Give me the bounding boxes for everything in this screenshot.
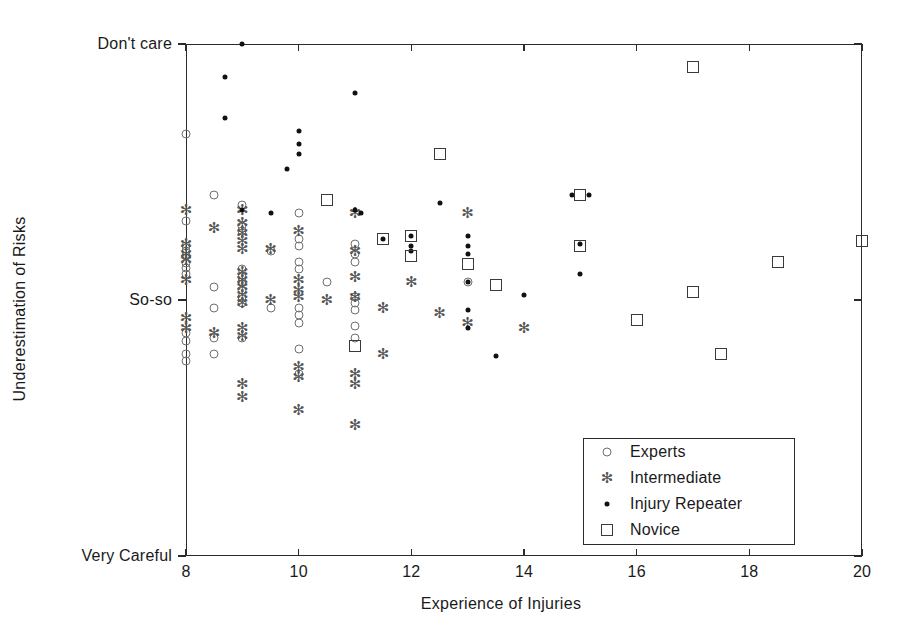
data-point-square — [405, 250, 417, 262]
data-point-circle — [182, 349, 191, 358]
data-point-star — [180, 204, 193, 217]
data-point-circle — [351, 239, 360, 248]
data-point-dot — [296, 152, 301, 157]
data-point-dot — [240, 208, 245, 213]
data-point-star — [349, 270, 362, 283]
data-point-dot — [465, 326, 470, 331]
data-point-star — [320, 294, 333, 307]
data-point-square — [687, 61, 699, 73]
x-tick-label: 18 — [740, 563, 758, 581]
y-tick-label: Don't care — [98, 35, 172, 53]
data-point-dot — [409, 244, 414, 249]
data-point-dot — [578, 272, 583, 277]
data-point-star — [264, 242, 277, 255]
data-point-star — [236, 204, 249, 217]
data-point-star — [518, 322, 531, 335]
legend-item-experts[interactable]: Experts — [584, 439, 794, 465]
star-icon — [601, 472, 614, 485]
data-point-circle — [266, 303, 275, 312]
x-tick-label: 20 — [853, 563, 871, 581]
data-point-dot — [409, 249, 414, 254]
x-axis-title: Experience of Injuries — [0, 595, 898, 613]
data-point-star — [377, 301, 390, 314]
data-point-dot — [223, 75, 228, 80]
data-point-circle — [182, 247, 191, 256]
data-point-star — [292, 370, 305, 383]
data-point-dot — [522, 292, 527, 297]
x-tick-label: 8 — [181, 563, 190, 581]
legend-label: Injury Repeater — [630, 495, 742, 513]
legend-item-injury-repeater[interactable]: Injury Repeater — [584, 491, 794, 517]
x-tick-mark — [298, 549, 299, 556]
data-point-dot — [409, 234, 414, 239]
data-point-star — [208, 327, 221, 340]
data-point-circle — [210, 334, 219, 343]
data-point-circle — [238, 226, 247, 235]
data-point-star — [236, 242, 249, 255]
data-point-star — [292, 273, 305, 286]
data-point-square — [490, 279, 502, 291]
data-point-dot — [223, 116, 228, 121]
data-point-star — [461, 206, 474, 219]
y-tick-label: So-so — [129, 291, 172, 309]
data-point-star — [349, 291, 362, 304]
legend-marker-circle-icon — [584, 439, 630, 465]
data-point-circle — [182, 242, 191, 251]
x-tick-mark — [411, 549, 412, 556]
scatter-plot-figure: 8101214161820Don't careSo-soVery Careful… — [0, 0, 898, 639]
legend-label: Intermediate — [630, 469, 721, 487]
data-point-dot — [465, 280, 470, 285]
data-point-circle — [182, 259, 191, 268]
data-point-star — [180, 322, 193, 335]
data-point-dot — [465, 251, 470, 256]
data-point-circle — [238, 272, 247, 281]
data-point-dot — [578, 241, 583, 246]
data-point-star — [236, 296, 249, 309]
data-point-circle — [351, 298, 360, 307]
x-tick-mark-top — [411, 44, 412, 51]
data-point-star — [180, 254, 193, 267]
legend-rows: ExpertsIntermediateInjury RepeaterNovice — [584, 439, 794, 543]
data-point-star — [236, 273, 249, 286]
legend-label: Novice — [630, 521, 680, 539]
data-point-circle — [294, 319, 303, 328]
data-point-dot — [437, 200, 442, 205]
data-point-circle — [182, 270, 191, 279]
data-point-square — [377, 233, 389, 245]
data-point-circle — [294, 344, 303, 353]
data-point-circle — [238, 298, 247, 307]
data-point-dot — [586, 193, 591, 198]
data-point-circle — [182, 264, 191, 273]
data-point-star — [236, 217, 249, 230]
data-point-square — [631, 314, 643, 326]
data-point-dot — [358, 210, 363, 215]
data-point-star — [236, 329, 249, 342]
data-point-star — [292, 404, 305, 417]
data-point-circle — [182, 216, 191, 225]
x-tick-mark — [636, 549, 637, 556]
data-point-square — [687, 286, 699, 298]
data-point-circle — [294, 257, 303, 266]
data-point-circle — [294, 311, 303, 320]
data-point-star — [405, 276, 418, 289]
legend-item-novice[interactable]: Novice — [584, 517, 794, 543]
legend-label: Experts — [630, 443, 686, 461]
data-point-circle — [294, 303, 303, 312]
x-tick-label: 16 — [628, 563, 646, 581]
data-point-circle — [294, 265, 303, 274]
data-point-circle — [210, 191, 219, 200]
legend-item-intermediate[interactable]: Intermediate — [584, 465, 794, 491]
data-point-circle — [238, 334, 247, 343]
data-point-square — [715, 348, 727, 360]
x-tick-mark-top — [185, 44, 186, 51]
circle-icon — [603, 448, 612, 457]
data-point-star — [292, 360, 305, 373]
data-point-star — [292, 291, 305, 304]
data-point-circle — [351, 306, 360, 315]
data-point-star — [236, 288, 249, 301]
x-tick-mark — [523, 549, 524, 556]
data-point-square — [574, 240, 586, 252]
data-point-dot — [240, 42, 245, 47]
data-point-dot — [268, 210, 273, 215]
data-point-circle — [238, 285, 247, 294]
